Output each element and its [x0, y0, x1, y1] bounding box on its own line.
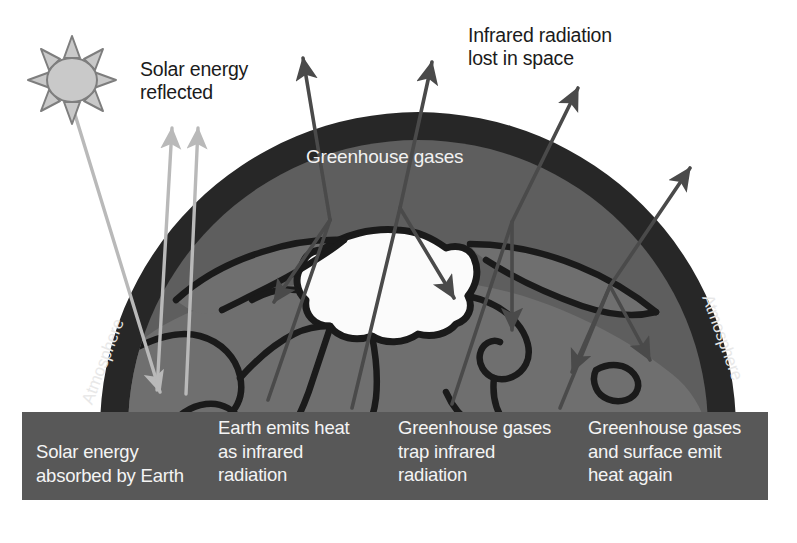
label-solar-energy-reflected: Solar energy reflected	[140, 58, 248, 104]
label-greenhouse-gases: Greenhouse gases	[306, 146, 463, 168]
caption-block-4: Greenhouse gases and surface emit heat a…	[588, 416, 741, 487]
label-infrared-lost-in-space: Infrared radiation lost in space	[468, 24, 612, 70]
sun-icon	[28, 36, 116, 124]
caption-block-2: Earth emits heat as infrared radiation	[218, 416, 350, 487]
caption-block-3: Greenhouse gases trap infrared radiation	[398, 416, 551, 487]
caption-block-1: Solar energy absorbed by Earth	[36, 440, 184, 487]
sun-disc	[47, 58, 97, 102]
greenhouse-effect-figure: Solar energy reflected Infrared radiatio…	[0, 0, 797, 543]
